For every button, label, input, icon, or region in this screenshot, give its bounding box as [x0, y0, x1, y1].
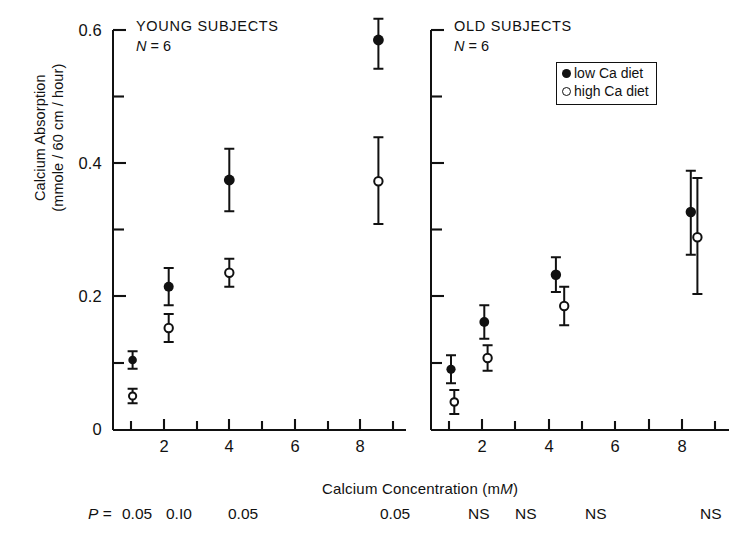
old-x-tick-label-8: 8 [672, 437, 692, 456]
young-x-tick-label-6: 6 [285, 437, 305, 456]
old-low-ca-errorbars [446, 171, 696, 384]
old-axis-lines [431, 30, 729, 430]
panel-young-subjects: YOUNG SUBJECTS N = 6 [110, 0, 410, 470]
p-value-young-1: 0.05 [122, 505, 152, 523]
y-axis-label: Calcium Absorption (mmole / 60 cm / hour… [32, 28, 67, 248]
y-axis-label-line1: Calcium Absorption [32, 74, 48, 201]
p-value-old-1: NS [468, 505, 490, 523]
p-value-old-4: NS [585, 505, 607, 523]
y-tick-label-0: 0 [56, 420, 102, 439]
y-axis-label-line2: (mmole / 60 cm / hour) [50, 28, 68, 248]
young-y-minor-ticks [113, 97, 124, 364]
young-x-tick-label-4: 4 [219, 437, 239, 456]
old-high-ca-errorbars [449, 178, 702, 414]
young-x-tick-label-8: 8 [350, 437, 370, 456]
y-tick-label-0.6: 0.6 [56, 21, 102, 40]
old-plot-svg [428, 0, 733, 470]
old-low-ca-points [446, 207, 696, 374]
old-x-tick-label-2: 2 [472, 437, 492, 456]
young-low-ca-errorbars [128, 19, 384, 369]
young-high-ca-errorbars [128, 137, 384, 403]
old-y-major-ticks [431, 30, 444, 296]
old-x-ticks [449, 419, 715, 430]
young-plot-svg [110, 0, 410, 470]
young-y-major-ticks [113, 30, 126, 296]
young-x-tick-label-2: 2 [154, 437, 174, 456]
x-axis-title-pre: Calcium Concentration (m [322, 480, 500, 497]
young-x-ticks [131, 419, 393, 430]
old-x-tick-label-6: 6 [605, 437, 625, 456]
p-value-old-8: NS [700, 505, 722, 523]
p-row-equals: = [98, 505, 111, 522]
y-tick-label-0.4: 0.4 [56, 154, 102, 173]
old-x-tick-label-4: 4 [539, 437, 559, 456]
young-axis-lines [113, 30, 406, 430]
figure-root: Calcium Absorption (mmole / 60 cm / hour… [0, 0, 747, 535]
x-axis-title-italic-m: M [500, 480, 513, 497]
old-y-minor-ticks [431, 97, 442, 364]
p-value-young-4: 0.05 [228, 505, 258, 523]
x-axis-title: Calcium Concentration (mM) [322, 480, 518, 497]
panel-old-subjects: OLD SUBJECTS N = 6 low Ca diet high Ca d… [428, 0, 733, 470]
x-axis-title-post: ) [513, 480, 518, 497]
y-tick-label-0.2: 0.2 [56, 287, 102, 306]
p-value-old-2: NS [515, 505, 537, 523]
p-value-young-2: 0.I0 [166, 505, 192, 523]
p-row-prefix: P = [88, 505, 112, 523]
p-row-p-symbol: P [88, 505, 98, 522]
p-value-young-8: 0.05 [380, 505, 410, 523]
